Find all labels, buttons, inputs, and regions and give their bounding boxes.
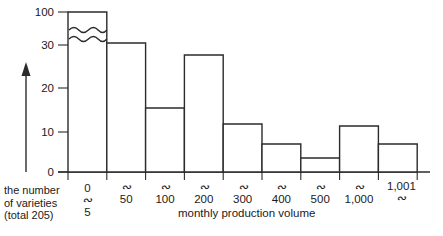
tilde-icon: ∾ xyxy=(184,182,223,193)
y-tick-label-30: 30 xyxy=(20,39,54,51)
x-tick-label-4: ∾ 300 xyxy=(223,182,262,206)
tilde-icon: ∾ xyxy=(340,182,379,193)
tilde-icon: ∾ xyxy=(301,182,340,193)
tilde-icon: ∾ xyxy=(107,182,146,193)
bar-8 xyxy=(378,144,417,172)
bar-7 xyxy=(340,126,379,172)
x-tick-label-3: ∾ 200 xyxy=(184,182,223,206)
y-axis-arrow-icon xyxy=(22,62,31,172)
tilde-icon: ∾ xyxy=(223,182,262,193)
x-tick-6-bottom: 500 xyxy=(301,193,340,206)
y-tick-label-10: 10 xyxy=(20,126,54,138)
x-tick-4-bottom: 300 xyxy=(223,193,262,206)
bar-5 xyxy=(262,144,301,172)
x-tick-label-6: ∾ 500 xyxy=(301,182,340,206)
y-tick-label-20: 20 xyxy=(20,82,54,94)
x-axis-title: monthly production volume xyxy=(178,207,315,219)
y-axis-title-line-3: (total 205) xyxy=(4,209,60,222)
x-tick-0-bottom: 5 xyxy=(68,206,107,219)
bar-2 xyxy=(146,108,185,172)
y-axis-title: the number of varieties (total 205) xyxy=(4,184,60,222)
tilde-icon: ∾ xyxy=(68,195,107,206)
y-tick-label-100: 100 xyxy=(20,6,54,18)
bar-4 xyxy=(223,124,262,172)
y-axis-title-line-2: of varieties xyxy=(4,197,60,210)
tilde-icon: ∾ xyxy=(262,182,301,193)
tilde-icon: ∾ xyxy=(146,182,185,193)
bar-3 xyxy=(184,55,223,172)
x-tick-label-8: 1,001 ∾ xyxy=(378,180,424,204)
tilde-icon: ∾ xyxy=(378,193,424,204)
x-tick-label-2: ∾ 100 xyxy=(146,182,185,206)
chart-container: 100 30 20 10 0 0 ∾ 5 ∾ 50 ∾ 100 ∾ 200 ∾ … xyxy=(0,0,443,236)
x-tick-label-1: ∾ 50 xyxy=(107,182,146,206)
y-axis-title-line-1: the number xyxy=(4,184,60,197)
x-tick-3-bottom: 200 xyxy=(184,193,223,206)
x-tick-5-bottom: 400 xyxy=(262,193,301,206)
bar-1 xyxy=(107,43,146,172)
x-tick-7-bottom: 1,000 xyxy=(340,193,379,206)
axis-break-squiggle-icon xyxy=(69,24,107,42)
x-tick-label-7: ∾ 1,000 xyxy=(340,182,379,206)
x-tick-label-5: ∾ 400 xyxy=(262,182,301,206)
x-tick-1-bottom: 50 xyxy=(107,193,146,206)
x-tick-label-0: 0 ∾ 5 xyxy=(68,182,107,218)
y-axis-ticks xyxy=(58,12,68,172)
bar-series xyxy=(68,12,417,172)
bar-6 xyxy=(301,158,340,172)
x-tick-2-bottom: 100 xyxy=(146,193,185,206)
x-axis-ticks xyxy=(68,172,417,180)
y-tick-label-0: 0 xyxy=(20,166,54,178)
